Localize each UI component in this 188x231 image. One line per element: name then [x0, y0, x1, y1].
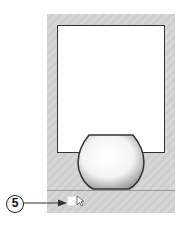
separator	[47, 190, 175, 191]
callout-arrow-icon	[24, 198, 68, 208]
pointer-cursor-icon	[76, 195, 85, 207]
callout-number: 5	[6, 195, 24, 213]
sphere-object-icon[interactable]	[77, 134, 145, 190]
canvas-panel	[47, 14, 175, 213]
